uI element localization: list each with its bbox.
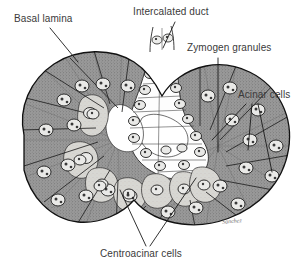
label-intercalated-duct: Intercalated duct xyxy=(133,6,209,18)
leader-basal-lamina xyxy=(50,28,78,62)
label-zymogen-granules: Zymogen granules xyxy=(187,42,271,54)
pancreatic-acinus-illustration xyxy=(0,0,306,270)
figure-canvas: Basal lamina Intercalated duct Zymogen g… xyxy=(0,0,306,270)
label-acinar-cells: Acinar cells xyxy=(238,89,290,101)
label-basal-lamina: Basal lamina xyxy=(14,13,72,25)
intercalated-duct-neck xyxy=(150,26,174,52)
label-centroacinar-cells: Centroacinar cells xyxy=(100,248,182,260)
